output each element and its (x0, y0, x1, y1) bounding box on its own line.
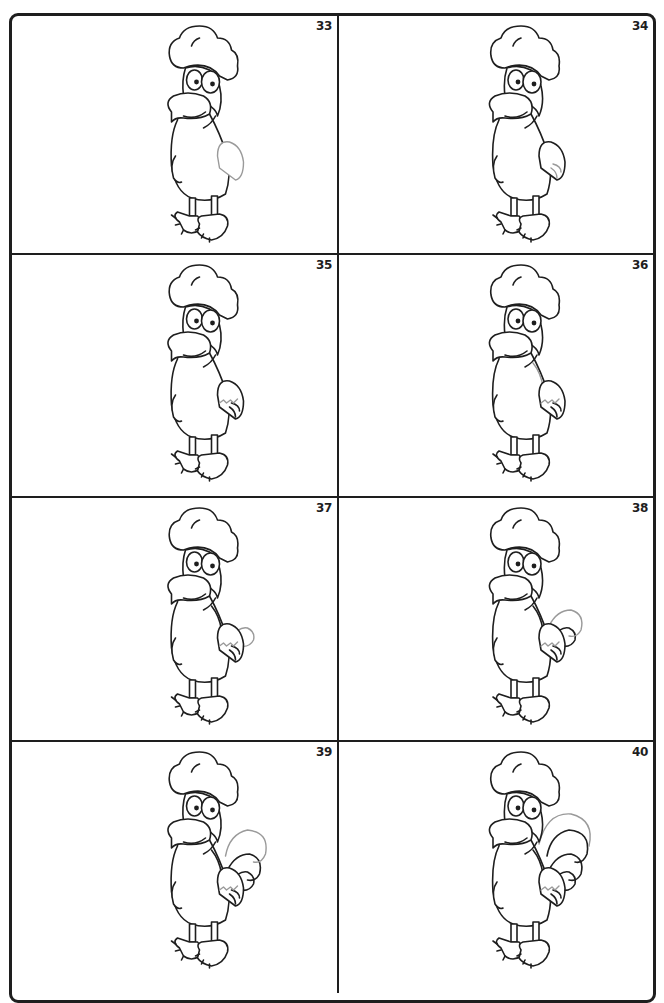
rooster-drawing-icon (339, 255, 653, 495)
step-panel-38: 38 (339, 498, 653, 740)
step-number: 34 (632, 19, 648, 33)
step-panel-36: 36 (339, 255, 653, 496)
step-panel-34: 34 (339, 16, 653, 253)
step-number: 36 (632, 258, 648, 272)
step-number: 33 (316, 19, 332, 33)
step-number: 37 (316, 501, 332, 515)
step-panel-39: 39 (12, 742, 337, 987)
rooster-drawing-icon (339, 16, 653, 253)
rooster-drawing-icon (12, 16, 337, 253)
step-number: 35 (316, 258, 332, 272)
rooster-drawing-icon (339, 498, 653, 738)
step-panel-40: 40 (339, 742, 653, 987)
step-number: 39 (316, 745, 332, 759)
step-number: 38 (632, 501, 648, 515)
rooster-drawing-icon (12, 498, 337, 738)
step-panel-37: 37 (12, 498, 337, 740)
step-panel-35: 35 (12, 255, 337, 496)
rooster-drawing-icon (12, 255, 337, 495)
rooster-drawing-icon (12, 742, 337, 982)
step-number: 40 (632, 745, 648, 759)
step-panel-33: 33 (12, 16, 337, 253)
rooster-drawing-icon (339, 742, 653, 982)
